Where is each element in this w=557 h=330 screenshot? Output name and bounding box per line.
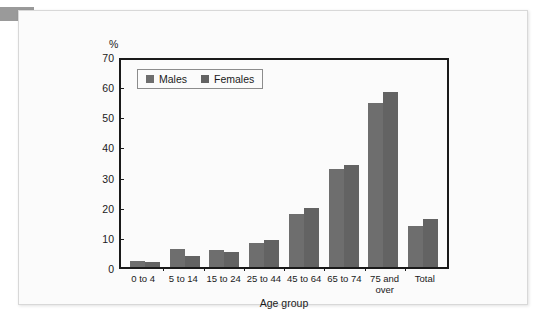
x-tick-label: 65 to 74 bbox=[324, 273, 364, 295]
chart-legend: MalesFemales bbox=[137, 69, 263, 89]
legend-entry-males[interactable]: Males bbox=[146, 73, 187, 85]
y-axis-tick-labels: 010203040506070 bbox=[91, 58, 114, 269]
x-tick-mark bbox=[204, 267, 205, 271]
legend-label: Males bbox=[159, 73, 187, 85]
x-axis-title: Age group bbox=[119, 297, 449, 309]
x-tick-label: 5 to 14 bbox=[163, 273, 203, 295]
x-axis-tick-labels: 0 to 45 to 1415 to 2425 to 4445 to 6465 … bbox=[119, 273, 449, 295]
bar-group bbox=[205, 250, 245, 267]
bar-females[interactable] bbox=[423, 219, 438, 267]
x-tick-label: Total bbox=[405, 273, 445, 295]
bar-group bbox=[125, 261, 165, 267]
x-tick-mark bbox=[365, 267, 366, 271]
bar-group bbox=[165, 249, 205, 267]
bar-males[interactable] bbox=[209, 250, 224, 267]
bar-males[interactable] bbox=[329, 169, 344, 267]
bar-males[interactable] bbox=[249, 243, 264, 267]
x-tick-label: 25 to 44 bbox=[244, 273, 284, 295]
y-tick-mark bbox=[119, 148, 124, 149]
y-tick-label: 40 bbox=[102, 142, 114, 154]
legend-label: Females bbox=[214, 73, 254, 85]
y-tick-mark bbox=[119, 209, 124, 210]
y-tick-label: 70 bbox=[102, 52, 114, 64]
legend-swatch-icon bbox=[146, 75, 154, 83]
y-tick-mark bbox=[119, 118, 124, 119]
bar-females[interactable] bbox=[224, 252, 239, 267]
bar-group bbox=[364, 92, 404, 267]
x-tick-label: 75 and over bbox=[365, 273, 405, 295]
bar-males[interactable] bbox=[289, 214, 304, 267]
bar-group bbox=[284, 208, 324, 267]
x-tick-mark bbox=[244, 267, 245, 271]
bar-females[interactable] bbox=[264, 240, 279, 267]
x-tick-label: 45 to 64 bbox=[284, 273, 324, 295]
legend-swatch-icon bbox=[201, 75, 209, 83]
x-tick-mark bbox=[405, 267, 406, 271]
x-tick-mark bbox=[163, 267, 164, 271]
y-tick-mark bbox=[119, 239, 124, 240]
x-tick-mark bbox=[284, 267, 285, 271]
bar-series-container bbox=[121, 60, 447, 267]
bar-males[interactable] bbox=[408, 226, 423, 267]
bar-females[interactable] bbox=[145, 262, 160, 267]
y-axis-unit-label: % bbox=[109, 38, 118, 50]
x-tick-mark bbox=[324, 267, 325, 271]
bar-females[interactable] bbox=[185, 256, 200, 267]
bar-females[interactable] bbox=[344, 165, 359, 267]
bar-group bbox=[244, 240, 284, 267]
bar-males[interactable] bbox=[130, 261, 145, 267]
x-tick-label: 15 to 24 bbox=[204, 273, 244, 295]
bar-males[interactable] bbox=[368, 103, 383, 267]
plot-area bbox=[119, 58, 449, 269]
bar-males[interactable] bbox=[170, 249, 185, 267]
x-tick-label: 0 to 4 bbox=[123, 273, 163, 295]
legend-entry-females[interactable]: Females bbox=[201, 73, 254, 85]
y-tick-label: 30 bbox=[102, 173, 114, 185]
bar-group bbox=[403, 219, 443, 267]
bar-females[interactable] bbox=[304, 208, 319, 267]
y-tick-mark bbox=[119, 179, 124, 180]
y-tick-label: 20 bbox=[102, 203, 114, 215]
y-tick-label: 60 bbox=[102, 82, 114, 94]
bar-group bbox=[324, 165, 364, 267]
y-tick-label: 0 bbox=[108, 263, 114, 275]
y-tick-label: 50 bbox=[102, 112, 114, 124]
bar-females[interactable] bbox=[383, 92, 398, 267]
chart-card: % 010203040506070 MalesFemales 0 to 45 t… bbox=[18, 10, 528, 305]
y-tick-mark bbox=[119, 88, 124, 89]
y-tick-label: 10 bbox=[102, 233, 114, 245]
